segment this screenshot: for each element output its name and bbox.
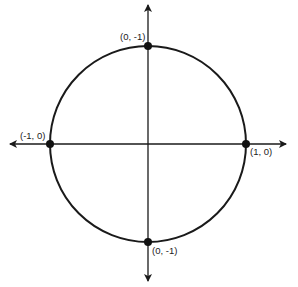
point-bottom [144, 238, 152, 246]
point-top [144, 42, 152, 50]
point-left [46, 140, 54, 148]
point-right [242, 140, 250, 148]
unit-circle-diagram: (0, -1) (-1, 0) (1, 0) (0, -1) [0, 0, 298, 287]
label-top: (0, -1) [120, 31, 145, 42]
label-left: (-1, 0) [20, 130, 45, 141]
label-right: (1, 0) [250, 146, 272, 157]
label-bottom: (0, -1) [152, 245, 177, 256]
